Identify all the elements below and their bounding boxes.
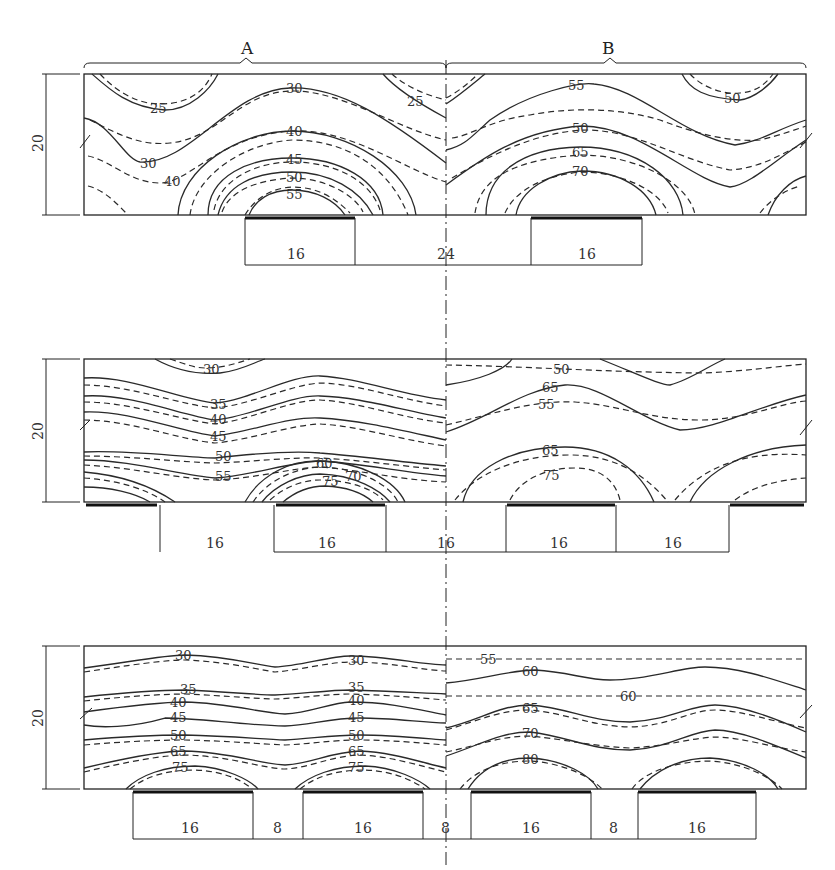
- slab-outline: [84, 74, 806, 215]
- contour-label: 80: [522, 752, 539, 767]
- height-dimension-label: 20: [30, 709, 46, 727]
- contour-label: 40: [286, 124, 303, 139]
- contour-label: 65: [572, 145, 589, 160]
- brace-a: [84, 58, 446, 68]
- contour-label: 65: [542, 443, 559, 458]
- contour-label: 30: [203, 362, 220, 377]
- contour-label: 50: [348, 728, 365, 743]
- contour-label: 25: [407, 94, 424, 109]
- contour-label: 40: [210, 412, 227, 427]
- contour-label: 25: [150, 101, 167, 116]
- contour-label: 35: [210, 397, 227, 412]
- contour-label: 30: [286, 81, 303, 96]
- contour-label: 70: [522, 726, 539, 741]
- contour-label: 40: [348, 693, 365, 708]
- contour-label: 40: [164, 174, 181, 189]
- height-dimension-label: 20: [30, 422, 46, 440]
- dimension-label: 16: [578, 246, 596, 262]
- dimension-label: 16: [550, 535, 568, 551]
- contour-label: 45: [286, 152, 303, 167]
- contour-label: 30: [348, 653, 365, 668]
- contour-label: 70: [572, 164, 589, 179]
- contour-label: 55: [480, 652, 497, 667]
- dimension-label: 16: [664, 535, 682, 551]
- contour-label: 65: [170, 744, 187, 759]
- contour-label: 45: [348, 710, 365, 725]
- contour-label: 75: [348, 760, 365, 775]
- contour-label: 55: [568, 78, 585, 93]
- slab-outline: [84, 359, 806, 502]
- section-label-a: A: [240, 38, 254, 58]
- contour-label: 50: [553, 362, 570, 377]
- dimension-label: 8: [273, 820, 282, 836]
- contour-label: 50: [170, 728, 187, 743]
- panel-middle: 20 30 35 40 45 50 55 60 70 75: [30, 359, 812, 552]
- contour-label: 70: [345, 469, 362, 484]
- dimension-label: 8: [441, 820, 450, 836]
- contour-label: 55: [286, 187, 303, 202]
- contour-label: 30: [140, 156, 157, 171]
- section-label-b: B: [602, 38, 615, 58]
- dimension-label: 16: [206, 535, 224, 551]
- contour-label: 45: [170, 710, 187, 725]
- dimension-label: 24: [437, 246, 455, 262]
- contour-label: 30: [175, 648, 192, 663]
- contour-label: 50: [286, 170, 303, 185]
- dimension-label: 16: [318, 535, 336, 551]
- contour-label: 75: [322, 474, 339, 489]
- contour-label: 60: [316, 456, 333, 471]
- dimension-label: 16: [688, 820, 706, 836]
- contour-label: 55: [538, 397, 555, 412]
- contour-label: 50: [215, 449, 232, 464]
- dimension-label: 16: [522, 820, 540, 836]
- contour-label: 65: [522, 701, 539, 716]
- panel-bottom: 20 30 30 35 35 40 40 45 45 50 50 65 65 7…: [30, 646, 812, 839]
- contour-label: 65: [542, 380, 559, 395]
- contour-label: 50: [572, 121, 589, 136]
- contour-label: 75: [543, 468, 560, 483]
- contour-label: 55: [215, 469, 232, 484]
- brace-b: [446, 58, 806, 68]
- contour-label: 65: [348, 744, 365, 759]
- panel-top: A B 20 25 30 25 40 30 40 45 50 5: [30, 38, 812, 265]
- contour-label: 75: [172, 760, 189, 775]
- isotherm-diagram: A B 20 25 30 25 40 30 40 45 50 5: [0, 0, 835, 870]
- contour-label: 60: [620, 689, 637, 704]
- dimension-label: 8: [609, 820, 618, 836]
- contour-label: 45: [210, 429, 227, 444]
- contour-label: 60: [522, 664, 539, 679]
- dimension-label: 16: [181, 820, 199, 836]
- contour-label: 50: [724, 91, 741, 106]
- dimension-label: 16: [354, 820, 372, 836]
- height-dimension-label: 20: [30, 134, 46, 152]
- dimension-label: 16: [437, 535, 455, 551]
- contour-label: 40: [170, 695, 187, 710]
- dimension-label: 16: [287, 246, 305, 262]
